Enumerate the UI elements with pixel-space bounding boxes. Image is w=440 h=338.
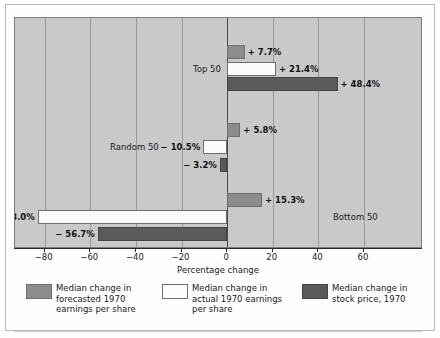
legend-item-actual: Median change in actual 1970 earnings pe… xyxy=(162,283,282,315)
tick-label--60: −60 xyxy=(69,252,109,262)
bar-value-label: + 21.4% xyxy=(279,62,319,76)
legend-swatch-forecast-icon xyxy=(26,284,52,299)
bar-random-50-actual xyxy=(203,140,227,154)
gridline-40 xyxy=(318,18,319,247)
tick-label--20: −20 xyxy=(161,252,201,262)
bar-top-50-actual xyxy=(227,62,276,76)
bar-value-label: − 56.7% xyxy=(55,227,95,241)
legend-label: Median change in actual 1970 earnings pe… xyxy=(192,283,282,315)
tick-label-40: 40 xyxy=(297,252,337,262)
bar-value-label: + 5.8% xyxy=(243,123,277,137)
legend-divider xyxy=(14,331,422,332)
bar-top-50-stock xyxy=(227,77,337,91)
tick-label-0: 0 xyxy=(206,252,246,262)
group-label-top-50: Top 50 xyxy=(193,64,221,74)
legend-label: Median change in stock price, 1970 xyxy=(332,283,407,304)
bar-value-label: − 3.2% xyxy=(183,158,217,172)
bar-top-50-forecast xyxy=(227,45,245,59)
bar-bottom-50-forecast xyxy=(227,193,262,207)
group-label-bottom-50: Bottom 50 xyxy=(333,212,378,222)
bar-value-label: + 15.3% xyxy=(265,193,305,207)
tick-label--80: −80 xyxy=(24,252,64,262)
tick-label-60: 60 xyxy=(343,252,383,262)
legend-swatch-actual-icon xyxy=(162,284,188,299)
bar-value-label: + 48.4% xyxy=(341,77,381,91)
bar-random-50-forecast xyxy=(227,123,240,137)
x-axis-title: Percentage change xyxy=(14,265,422,275)
legend-item-forecast: Median change in forecasted 1970 earning… xyxy=(26,283,136,315)
tick-label--40: −40 xyxy=(115,252,155,262)
bar-bottom-50-stock xyxy=(98,227,227,241)
chart-figure: + 7.7%+ 21.4%+ 48.4%+ 5.8%− 10.5%− 3.2%+… xyxy=(0,0,440,338)
bar-random-50-stock xyxy=(220,158,227,172)
plot-area: + 7.7%+ 21.4%+ 48.4%+ 5.8%− 10.5%− 3.2%+… xyxy=(14,17,422,248)
bar-value-label: − 83.0% xyxy=(14,210,35,224)
tick-label-20: 20 xyxy=(252,252,292,262)
legend-item-stock: Median change in stock price, 1970 xyxy=(302,283,407,304)
bar-bottom-50-actual xyxy=(38,210,227,224)
x-axis-line xyxy=(14,248,422,249)
legend-label: Median change in forecasted 1970 earning… xyxy=(56,283,136,315)
chart-legend: Median change in forecasted 1970 earning… xyxy=(14,283,422,327)
bar-value-label: + 7.7% xyxy=(248,45,282,59)
bar-value-label: − 10.5% xyxy=(161,140,201,154)
group-label-random-50: Random 50 xyxy=(110,142,159,152)
legend-swatch-stock-icon xyxy=(302,284,328,299)
